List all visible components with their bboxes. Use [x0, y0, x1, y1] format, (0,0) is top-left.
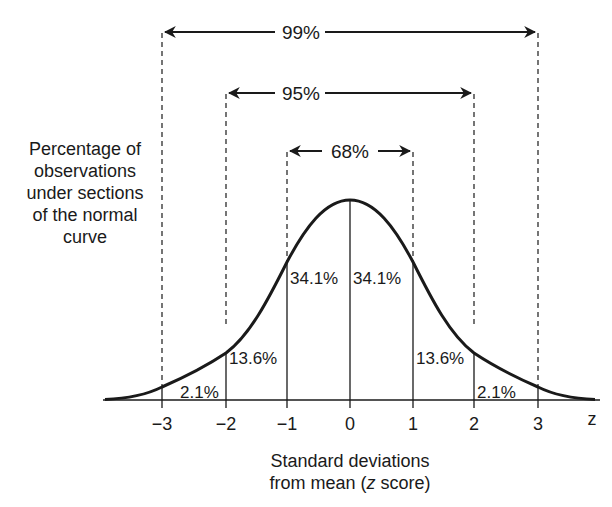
tick-label: 0: [345, 414, 355, 434]
range-label-99: 99%: [282, 22, 320, 43]
z-axis-end-label: z: [588, 409, 597, 429]
side-label-line: curve: [10, 226, 160, 248]
x-axis-title-prefix: from mean (: [269, 473, 366, 493]
section-label-34-1-right: 34.1%: [353, 269, 401, 288]
tick-label: 3: [533, 414, 543, 434]
tick-label: −3: [152, 414, 173, 434]
range-label-95: 95%: [282, 83, 320, 104]
x-axis-title: Standard deviations from mean (z score): [230, 450, 470, 494]
x-axis-title-suffix: score): [376, 473, 431, 493]
range-label-68: 68%: [331, 141, 369, 162]
y-axis-description: Percentage of observations under section…: [10, 138, 160, 248]
x-axis-title-line1: Standard deviations: [230, 450, 470, 472]
x-axis-title-line2: from mean (z score): [230, 472, 470, 494]
range-arrows: [165, 32, 535, 151]
tick-label: −1: [277, 414, 298, 434]
side-label-line: of the normal: [10, 204, 160, 226]
tick-label: 1: [408, 414, 418, 434]
side-label-line: under sections: [10, 182, 160, 204]
tick-label: 2: [469, 414, 479, 434]
x-axis-title-var: z: [367, 473, 376, 493]
side-label-line: Percentage of: [10, 138, 160, 160]
tick-label: −2: [216, 414, 237, 434]
section-label-2-1-left: 2.1%: [180, 383, 219, 402]
section-label-34-1-left: 34.1%: [290, 269, 338, 288]
side-label-line: observations: [10, 160, 160, 182]
section-label-13-6-left: 13.6%: [229, 349, 277, 368]
section-label-13-6-right: 13.6%: [416, 349, 464, 368]
section-lines: [162, 200, 538, 408]
normal-curve-diagram: 99% 95% 68% 2.1% 13.6% 34.1% 34.1% 13.6%…: [0, 0, 612, 507]
x-axis-ticks: −3 −2 −1 0 1 2 3: [152, 414, 543, 434]
section-label-2-1-right: 2.1%: [477, 383, 516, 402]
